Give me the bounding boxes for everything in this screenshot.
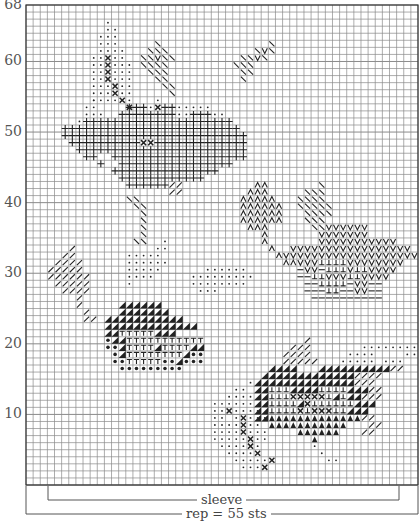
y-tick-label: 20 <box>0 335 22 351</box>
rep-label: rep = 55 sts <box>182 507 271 520</box>
y-tick-label: 40 <box>0 194 22 210</box>
y-tick-label: 60 <box>0 52 22 68</box>
y-tick-label: 68 <box>0 0 22 12</box>
sleeve-label: sleeve <box>197 493 246 506</box>
y-tick-label: 50 <box>0 123 22 139</box>
y-tick-label: 30 <box>0 264 22 280</box>
y-tick-label: 10 <box>0 405 22 421</box>
